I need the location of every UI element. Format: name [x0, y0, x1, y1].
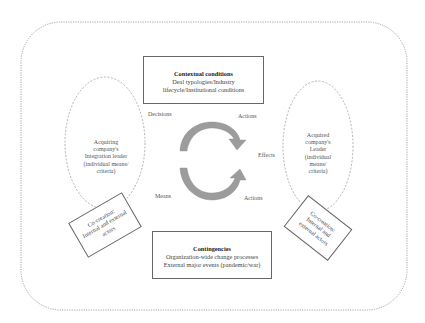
contextual-conditions-title: Contextual conditions	[144, 70, 263, 78]
effects-label: Effects	[258, 152, 275, 158]
acquired-leader-line: means/	[292, 161, 344, 168]
actions-top-label: Actions	[238, 113, 257, 119]
acquiring-leader-line: Integration leader	[72, 153, 140, 160]
contextual-conditions-line1: Deal typologies/Industry	[144, 78, 263, 86]
acquired-leader-line: (individual	[292, 154, 344, 161]
acquiring-leader-text: Acquiring company's Integration leader (…	[72, 139, 140, 175]
upper-arc-arrow	[180, 122, 246, 151]
acquiring-leader-line: company's	[72, 146, 140, 153]
acquired-leader-line: Acquired	[292, 132, 344, 139]
contingencies-line1: Organization-wide change processes	[153, 253, 271, 261]
acquired-leader-line: criteria)	[292, 168, 344, 175]
acquired-leader-line: Leader	[292, 146, 344, 153]
contingencies-box: Contingencies Organization-wide change p…	[152, 231, 272, 279]
acquired-leader-line: company's	[292, 139, 344, 146]
means-label: Means	[155, 193, 171, 199]
acquiring-leader-line: criteria)	[72, 168, 140, 175]
contingencies-title: Contingencies	[153, 245, 271, 253]
actions-bottom-label: Actions	[244, 195, 263, 201]
contingencies-line2: External major events (pandemic/war)	[153, 261, 271, 269]
cycle-arrows-icon	[180, 122, 246, 200]
contextual-conditions-line2: lifecycle/Institutional conditions	[144, 86, 263, 94]
acquiring-leader-line: Acquiring	[72, 139, 140, 146]
decisions-label: Decisions	[148, 111, 172, 117]
acquired-leader-text: Acquired company's Leader (individual me…	[292, 132, 344, 175]
lower-arc-arrow	[180, 168, 246, 200]
contextual-conditions-box: Contextual conditions Deal typologies/In…	[143, 56, 264, 104]
acquiring-leader-line: (individual means/	[72, 161, 140, 168]
